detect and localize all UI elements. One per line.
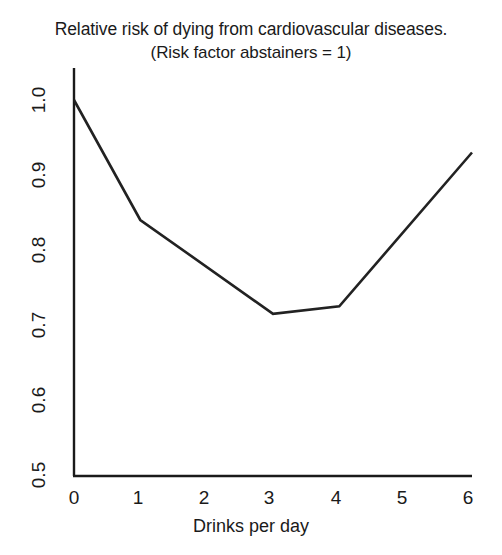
x-tick-label-0: 0 [59, 487, 89, 509]
x-tick-label-2: 2 [189, 487, 219, 509]
x-tick-label-5: 5 [387, 487, 417, 509]
x-tick-label-4: 4 [321, 487, 351, 509]
plot-area [0, 0, 502, 555]
y-tick-label-1.0: 1.0 [28, 77, 50, 123]
data-series-line [74, 100, 472, 314]
x-tick-label-3: 3 [254, 487, 284, 509]
y-tick-label-0.7: 0.7 [28, 302, 50, 348]
y-tick-label-0.9: 0.9 [28, 152, 50, 198]
y-tick-label-0.6: 0.6 [28, 377, 50, 423]
y-tick-label-0.8: 0.8 [28, 227, 50, 273]
chart-container: Relative risk of dying from cardiovascul… [0, 0, 502, 555]
y-tick-label-0.5: 0.5 [28, 452, 50, 498]
x-tick-label-1: 1 [123, 487, 153, 509]
x-tick-label-6: 6 [453, 487, 483, 509]
x-axis-title: Drinks per day [0, 516, 502, 537]
